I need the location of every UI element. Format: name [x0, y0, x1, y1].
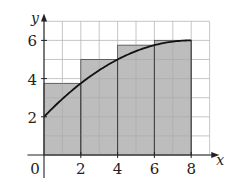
y-tick-label: 4 — [27, 71, 37, 89]
x-tick-label: 4 — [113, 160, 123, 178]
x-tick-label: 0 — [30, 160, 40, 178]
riemann-sum-chart: 02468246 x y — [0, 0, 225, 181]
y-axis-arrow-icon — [41, 13, 47, 21]
x-tick-label: 6 — [150, 160, 160, 178]
x-tick-label: 8 — [186, 160, 196, 178]
x-tick-label: 2 — [76, 160, 86, 178]
y-axis-label: y — [30, 10, 40, 26]
x-axis-label: x — [216, 152, 224, 168]
y-tick-label: 2 — [27, 109, 37, 127]
y-tick-label: 6 — [27, 32, 37, 50]
